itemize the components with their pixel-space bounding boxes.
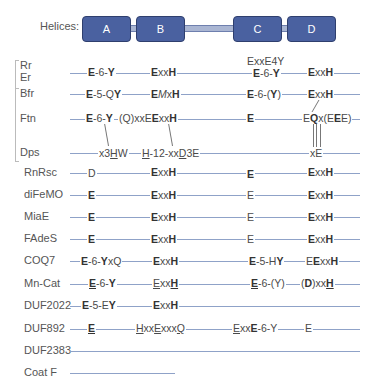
connector-bfr-ftn <box>311 99 320 113</box>
motif-duf2022-1: E-5-EY <box>81 299 117 311</box>
motif-rnrsc-4: ExxH <box>307 166 334 178</box>
row-label-er: Er <box>20 71 31 83</box>
connector-ftn-dps-1 <box>104 123 109 146</box>
motif-er-1: E-6-Y <box>87 66 116 78</box>
motif-bfr-2: EMxH <box>150 88 181 100</box>
helix-d: D <box>287 16 336 42</box>
row-label-duf892: DUF892 <box>24 322 65 334</box>
motif-duf2022-2: ExxH <box>152 299 179 311</box>
row-label-rnrsc: RnRsc <box>24 166 57 178</box>
motif-difemo-2: ExxH <box>150 189 177 201</box>
motif-rnrsc-2: ExxH <box>150 166 177 178</box>
motif-rnrsc-1: D <box>87 167 97 179</box>
motif-ftn-1: E-6-Y <box>85 112 114 124</box>
motif-fades-3: E <box>246 233 255 245</box>
motif-bfr-4: ExxH <box>307 88 334 100</box>
row-label-fades: FAdeS <box>24 232 57 244</box>
motif-dps-2: H-12-xxD3E <box>141 147 200 159</box>
motif-difemo-3: E <box>246 189 255 201</box>
motif-miae-2: ExxH <box>150 211 177 223</box>
seq-line-coatf <box>70 373 175 374</box>
row-label-dps: Dps <box>20 146 40 158</box>
motif-mncat-2: ExxH <box>152 277 179 289</box>
row-label-duf2022: DUF2022 <box>24 299 71 311</box>
group-bracket-ferritin <box>15 88 19 162</box>
row-label-coq7: COQ7 <box>24 254 55 266</box>
motif-coq7-3: E-5-HY <box>248 255 284 267</box>
helix-b: B <box>136 16 185 42</box>
motif-coq7-4: EExxH <box>305 255 339 267</box>
connector-ftn-dps-2 <box>168 123 173 146</box>
motif-mncat-4: (D)xxH <box>300 277 335 289</box>
motif-duf892-2: HxxExxxQ <box>135 322 186 334</box>
motif-bfr-3: E-6-(Y) <box>246 88 282 100</box>
row-label-difemo: diFeMO <box>24 188 63 200</box>
motif-bfr-1: E-5-QY <box>85 88 122 100</box>
seq-line-duf2383 <box>70 351 360 352</box>
motif-coq7-1: E-6-YxQ <box>80 255 122 267</box>
row-label-miae: MiaE <box>24 210 49 222</box>
motif-dps-3: xE <box>309 147 323 159</box>
motif-coq7-2: ExxH <box>152 255 179 267</box>
motif-difemo-1: E <box>87 189 96 201</box>
motif-er-note: ExxE4Y <box>246 55 285 67</box>
row-label-duf2383: DUF2383 <box>24 344 71 356</box>
motif-miae-1: E <box>87 211 96 223</box>
seq-line-duf892 <box>70 329 360 330</box>
row-label-bfr: Bfr <box>20 87 34 99</box>
group-bracket-rubrerythrin <box>15 60 19 89</box>
row-label-mncat: Mn-Cat <box>24 277 60 289</box>
connector-ftn-dps-3a <box>313 124 314 147</box>
motif-mncat-3: E-6-(Y) <box>250 277 286 289</box>
motif-rnrsc-3: E <box>246 168 255 180</box>
motif-mncat-1: E-6-Y <box>88 277 117 289</box>
motif-ftn-4: EQx(EEE) <box>302 112 352 124</box>
motif-duf892-1: E <box>87 322 96 334</box>
motif-ftn-3: E <box>246 112 255 124</box>
motif-difemo-4: ExxH <box>307 189 334 201</box>
helix-link-bc <box>183 25 235 32</box>
motif-miae-4: ExxH <box>307 211 334 223</box>
motif-dps-1: x3HW <box>98 147 129 159</box>
motif-er-2: ExxH <box>150 66 177 78</box>
motif-duf892-4: E <box>304 322 313 334</box>
motif-fades-4: ExxH <box>307 233 334 245</box>
motif-duf892-3: ExxE-6-Y <box>232 322 278 334</box>
motif-fades-2: ExxH <box>150 233 177 245</box>
motif-er-4: ExxH <box>307 66 334 78</box>
helices-label: Helices: <box>40 20 79 32</box>
motif-miae-3: E <box>246 211 255 223</box>
row-label-rr: Rr <box>20 59 32 71</box>
helix-c: C <box>233 16 282 42</box>
connector-ftn-dps-3b <box>316 124 317 147</box>
motif-er-3: E-6-Y <box>252 67 281 79</box>
row-label-ftn: Ftn <box>20 112 36 124</box>
connector-ftn-dps-3c <box>320 124 321 147</box>
motif-fades-1: E <box>87 233 96 245</box>
motif-ftn-2: (Q)xxEExxH <box>118 112 178 124</box>
row-label-coatf: Coat F <box>24 366 57 378</box>
helix-a: A <box>82 16 131 42</box>
